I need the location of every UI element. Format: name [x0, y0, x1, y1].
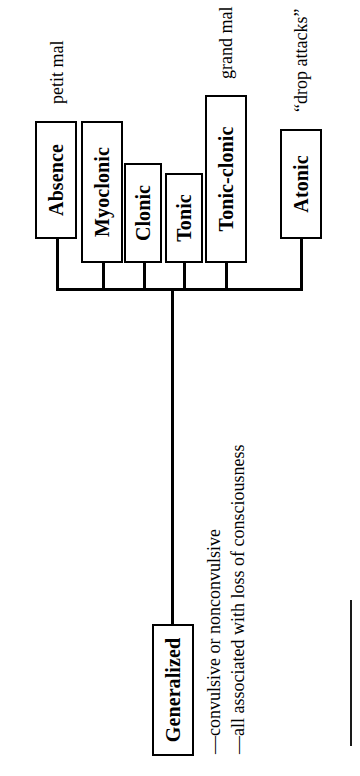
node-tonic-clonic-label: Tonic-clonic — [216, 124, 236, 235]
rotated-page-stage: Generalized —convulsive or nonconvulsive… — [0, 0, 360, 776]
node-generalized-label: Generalized — [163, 635, 183, 745]
node-tonic[interactable]: Tonic — [165, 173, 203, 263]
annotation-absence: petit mal — [47, 41, 68, 104]
page-edge-rule — [350, 600, 352, 746]
annotation-tonic-clonic: grand mal — [216, 7, 237, 79]
stub-tonic-clonic — [225, 263, 228, 291]
root-bullet-2: —all associated with loss of consciousne… — [226, 334, 250, 754]
node-absence[interactable]: Absence — [35, 121, 77, 239]
node-atonic[interactable]: Atonic — [280, 129, 322, 239]
stub-myoclonic — [102, 263, 105, 291]
bus-line — [56, 289, 302, 292]
root-bullet-list: —convulsive or nonconvulsive —all associ… — [202, 334, 250, 754]
annotation-atonic: “drop attacks” — [291, 9, 312, 112]
stub-tonic — [183, 263, 186, 291]
node-myoclonic-label: Myoclonic — [92, 144, 112, 240]
seizure-classification-diagram: Generalized —convulsive or nonconvulsive… — [0, 0, 360, 776]
stub-absence — [56, 239, 59, 291]
node-atonic-label: Atonic — [291, 152, 311, 215]
node-clonic-label: Clonic — [133, 182, 153, 244]
node-generalized[interactable]: Generalized — [152, 624, 194, 756]
node-absence-label: Absence — [46, 141, 66, 219]
node-myoclonic[interactable]: Myoclonic — [81, 121, 123, 263]
node-clonic[interactable]: Clonic — [124, 163, 162, 263]
root-bullet-1: —convulsive or nonconvulsive — [202, 334, 226, 754]
node-tonic-clonic[interactable]: Tonic-clonic — [205, 95, 247, 263]
stub-clonic — [143, 263, 146, 291]
node-tonic-label: Tonic — [174, 191, 194, 245]
trunk-connector — [171, 291, 174, 624]
stub-atonic — [300, 239, 303, 291]
